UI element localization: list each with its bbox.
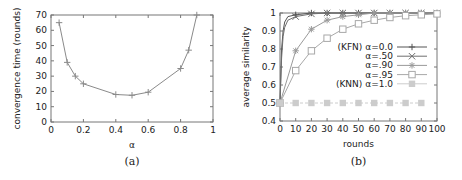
x-tick-label: 0.8 bbox=[173, 125, 188, 135]
y-tick-label: 20 bbox=[36, 86, 48, 96]
marker-open-square-icon bbox=[387, 14, 393, 20]
y-tick-label: 0.5 bbox=[262, 98, 276, 108]
x-tick-label: 50 bbox=[353, 124, 365, 134]
x-tick-label: 20 bbox=[306, 124, 318, 134]
plot-frame bbox=[51, 15, 213, 122]
marker-filled-square-icon bbox=[324, 100, 330, 106]
x-tick-label: 60 bbox=[368, 124, 380, 134]
y-tick-label: 0.9 bbox=[262, 26, 277, 36]
x-tick-label: 100 bbox=[428, 124, 445, 134]
marker-plus-icon bbox=[64, 59, 70, 65]
marker-filled-square-icon bbox=[308, 100, 314, 106]
y-tick-label: 0.7 bbox=[262, 62, 276, 72]
series-0 bbox=[56, 12, 200, 99]
marker-open-square-icon bbox=[418, 12, 424, 18]
marker-open-square-icon bbox=[355, 21, 361, 27]
x-tick-label: 40 bbox=[337, 124, 349, 134]
marker-asterisk-icon bbox=[340, 13, 346, 19]
marker-plus-icon bbox=[129, 92, 135, 98]
figure-caption: (a) bbox=[124, 155, 139, 168]
y-tick-label: 1 bbox=[270, 8, 276, 18]
x-axis-label: α bbox=[129, 140, 135, 150]
figure: 00.20.40.60.81010203040506070αconvergenc… bbox=[0, 0, 462, 180]
x-tick-label: 10 bbox=[290, 124, 302, 134]
marker-open-square-icon bbox=[371, 17, 377, 23]
x-tick-label: 0.2 bbox=[76, 125, 90, 135]
y-tick-label: 0.6 bbox=[262, 80, 277, 90]
marker-asterisk-icon bbox=[355, 12, 361, 18]
x-tick-label: 1 bbox=[210, 125, 216, 135]
marker-filled-square-icon bbox=[387, 100, 393, 106]
y-tick-label: 60 bbox=[36, 25, 48, 35]
y-axis-label: convergence time (rounds) bbox=[12, 8, 22, 130]
x-tick-label: 70 bbox=[384, 124, 396, 134]
marker-filled-square-icon bbox=[409, 81, 415, 87]
marker-asterisk-icon bbox=[371, 10, 377, 16]
y-tick-label: 50 bbox=[36, 41, 48, 51]
marker-open-square-icon bbox=[293, 67, 299, 73]
marker-filled-square-icon bbox=[402, 100, 408, 106]
y-axis-label: average similarity bbox=[241, 26, 251, 108]
marker-open-square-icon bbox=[434, 11, 440, 17]
y-tick-label: 0 bbox=[41, 117, 47, 127]
marker-asterisk-icon bbox=[409, 62, 415, 68]
marker-filled-square-icon bbox=[277, 100, 283, 106]
series-3 bbox=[277, 11, 440, 107]
y-tick-label: 40 bbox=[36, 56, 48, 66]
x-tick-label: 80 bbox=[400, 124, 412, 134]
marker-plus-icon bbox=[308, 10, 314, 16]
x-tick-label: 30 bbox=[321, 124, 333, 134]
marker-plus-icon bbox=[409, 44, 415, 50]
marker-plus-icon bbox=[194, 12, 200, 18]
series-line bbox=[59, 15, 197, 95]
x-axis-label: rounds bbox=[343, 139, 374, 149]
y-tick-label: 10 bbox=[36, 102, 48, 112]
y-tick-label: 70 bbox=[36, 10, 48, 20]
marker-filled-square-icon bbox=[293, 100, 299, 106]
y-tick-label: 30 bbox=[36, 71, 48, 81]
x-tick-label: 0.6 bbox=[141, 125, 156, 135]
x-tick-label: 90 bbox=[416, 124, 428, 134]
marker-open-square-icon bbox=[324, 35, 330, 41]
marker-asterisk-icon bbox=[308, 26, 314, 32]
marker-plus-icon bbox=[56, 19, 62, 25]
marker-filled-square-icon bbox=[418, 100, 424, 106]
marker-asterisk-icon bbox=[293, 48, 299, 54]
marker-open-square-icon bbox=[402, 13, 408, 19]
marker-open-square-icon bbox=[409, 71, 415, 77]
x-tick-label: 0.4 bbox=[109, 125, 124, 135]
legend-item-4: (KNN) α=1.0 bbox=[336, 79, 427, 89]
marker-asterisk-icon bbox=[324, 17, 330, 23]
marker-open-square-icon bbox=[340, 26, 346, 32]
chart-a-convergence-time: 00.20.40.60.81010203040506070αconvergenc… bbox=[12, 8, 216, 168]
x-tick-label: 0 bbox=[48, 125, 54, 135]
y-tick-label: 0.8 bbox=[262, 44, 277, 54]
marker-filled-square-icon bbox=[340, 100, 346, 106]
chart-b-average-similarity: 01020304050607080901000.40.50.60.70.80.9… bbox=[241, 8, 446, 168]
figure-caption: (b) bbox=[351, 155, 367, 168]
y-tick-label: 0.4 bbox=[262, 116, 277, 126]
legend-label: (KNN) α=1.0 bbox=[336, 79, 393, 89]
series-4 bbox=[277, 100, 425, 106]
marker-plus-icon bbox=[113, 91, 119, 97]
marker-filled-square-icon bbox=[371, 100, 377, 106]
x-tick-label: 0 bbox=[277, 124, 283, 134]
marker-open-square-icon bbox=[308, 48, 314, 54]
marker-plus-icon bbox=[186, 47, 192, 53]
marker-filled-square-icon bbox=[355, 100, 361, 106]
